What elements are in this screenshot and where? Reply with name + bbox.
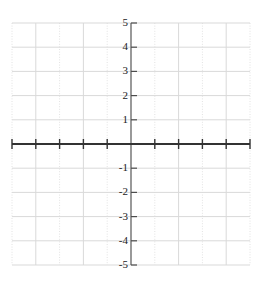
y-axis-label-4: 4 (108, 41, 128, 52)
y-axis-label--3: -3 (104, 211, 128, 222)
y-axis-label--1: -1 (104, 162, 128, 173)
y-axis-label-5: 5 (108, 17, 128, 28)
y-axis-label--4: -4 (104, 235, 128, 246)
y-axis-label--5: -5 (104, 259, 128, 270)
y-axis-label-2: 2 (108, 90, 128, 101)
cartesian-plane-svg (0, 0, 260, 282)
y-axis-label-3: 3 (108, 65, 128, 76)
y-axis-label-1: 1 (108, 114, 128, 125)
y-axis-label--2: -2 (104, 186, 128, 197)
coordinate-grid-graph: 5 4 3 2 1 -1 -2 -3 -4 -5 (0, 0, 260, 282)
